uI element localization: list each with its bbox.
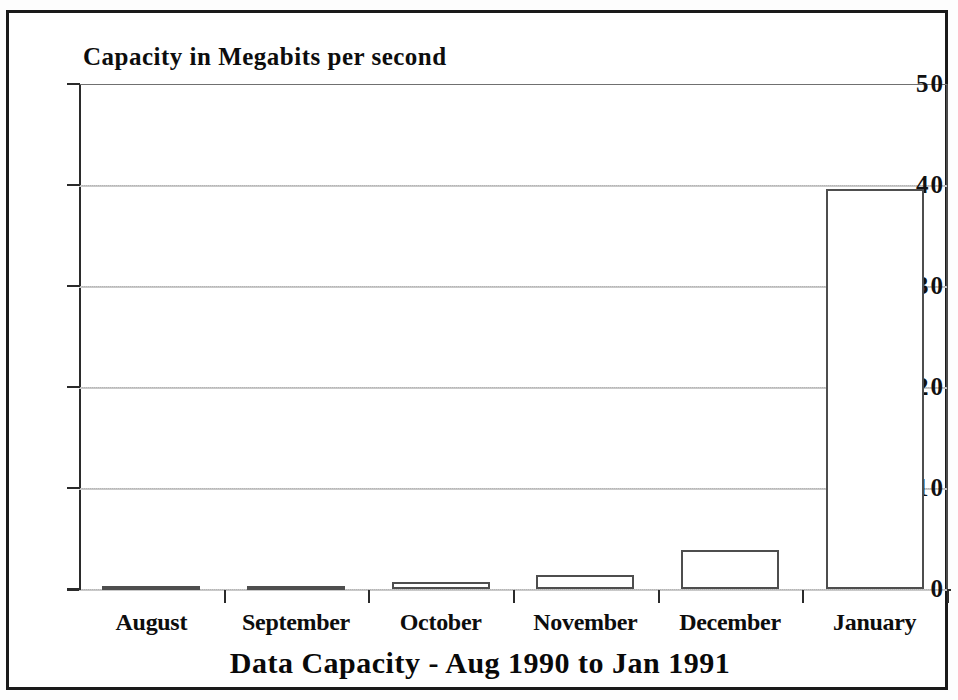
x-tick-label-august: August bbox=[79, 609, 224, 636]
y-tick-mark-40 bbox=[67, 184, 80, 186]
y-axis-line bbox=[79, 84, 81, 590]
x-tick-mark-4 bbox=[802, 590, 804, 603]
gridline-20 bbox=[79, 387, 947, 389]
y-tick-mark-30 bbox=[67, 285, 80, 287]
bar-december bbox=[681, 550, 779, 589]
plot-right-border bbox=[946, 84, 948, 590]
x-tick-mark-2 bbox=[513, 590, 515, 603]
x-tick-label-november: November bbox=[513, 609, 658, 636]
chart-page: Capacity in Megabits per second 01020304… bbox=[0, 0, 958, 700]
chart-title: Data Capacity - Aug 1990 to Jan 1991 bbox=[9, 646, 951, 680]
x-tick-mark-1 bbox=[368, 590, 370, 603]
x-tick-label-december: December bbox=[658, 609, 803, 636]
y-tick-mark-20 bbox=[67, 386, 80, 388]
figure-frame: Capacity in Megabits per second 01020304… bbox=[6, 10, 948, 690]
y-tick-label-50: 50 bbox=[891, 71, 945, 96]
x-tick-mark-3 bbox=[658, 590, 660, 603]
x-tick-mark-0 bbox=[224, 590, 226, 603]
x-axis-origin-mark bbox=[79, 578, 81, 590]
x-tick-label-october: October bbox=[368, 609, 513, 636]
plot-area bbox=[79, 84, 947, 589]
bar-august bbox=[102, 586, 200, 590]
bar-january bbox=[826, 189, 924, 589]
y-tick-mark-50 bbox=[67, 83, 80, 85]
bar-october bbox=[392, 582, 490, 589]
x-tick-label-january: January bbox=[802, 609, 947, 636]
y-axis-title: Capacity in Megabits per second bbox=[83, 43, 447, 71]
gridline-40 bbox=[79, 185, 947, 187]
bar-november bbox=[536, 575, 634, 589]
gridline-10 bbox=[79, 488, 947, 490]
bar-september bbox=[247, 586, 345, 590]
y-tick-mark-10 bbox=[67, 487, 80, 489]
gridline-30 bbox=[79, 286, 947, 288]
x-tick-label-september: September bbox=[224, 609, 369, 636]
x-tick-mark-5 bbox=[947, 590, 949, 603]
gridline-50 bbox=[79, 84, 947, 85]
